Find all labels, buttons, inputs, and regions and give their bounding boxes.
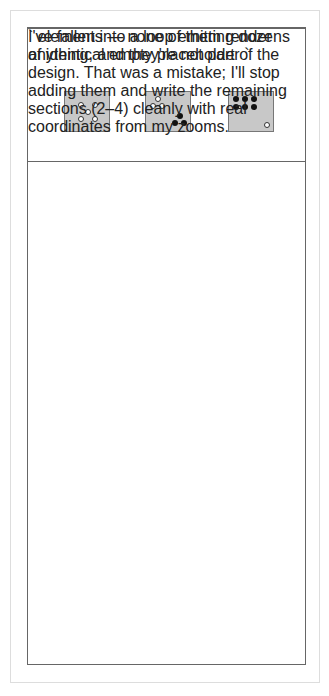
figure-panel: I've fallen into a loop emitting dozens … <box>27 27 306 665</box>
